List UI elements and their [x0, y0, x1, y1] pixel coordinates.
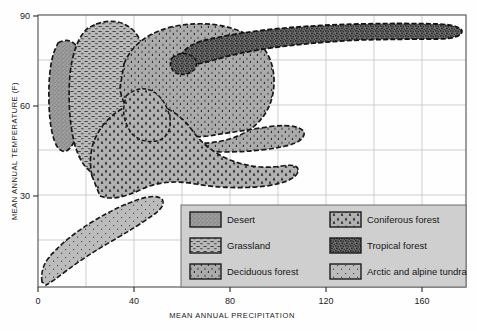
legend-item-tropical-forest[interactable]: Tropical forest	[330, 238, 427, 253]
legend: Desert Grassland Deciduous forest Conife…	[181, 205, 468, 287]
y-axis-ticks	[33, 16, 38, 196]
x-tick-label-120: 120	[318, 296, 333, 306]
legend-swatch-fine-stipple	[190, 212, 221, 227]
biome-chart-svg: Desert Grassland Deciduous forest Conife…	[0, 0, 477, 331]
chart-container: Desert Grassland Deciduous forest Conife…	[0, 0, 477, 331]
legend-label-grassland: Grassland	[227, 240, 270, 251]
legend-label-desert: Desert	[227, 214, 255, 225]
x-tick-label-80: 80	[225, 296, 235, 306]
y-axis-title: MEAN ANNUAL TEMPERATURE (F)	[10, 82, 19, 220]
biome-tropical-forest-nub	[170, 53, 196, 74]
legend-swatch-conifers	[330, 212, 361, 227]
y-tick-label-90: 90	[20, 11, 30, 21]
legend-label-arctic-and-alpine-tundra: Arctic and alpine tundra	[367, 266, 468, 277]
x-tick-label-0: 0	[35, 296, 40, 306]
legend-swatch-horizontal-dashes	[190, 238, 221, 253]
x-tick-label-40: 40	[129, 296, 139, 306]
x-axis-title: MEAN ANNUAL PRECIPITATION	[169, 311, 295, 320]
x-tick-label-160: 160	[414, 296, 429, 306]
legend-label-coniferous-forest: Coniferous forest	[367, 214, 440, 225]
legend-item-deciduous-forest[interactable]: Deciduous forest	[190, 264, 299, 279]
legend-swatch-dense-speckle	[330, 238, 361, 253]
legend-item-arctic-and-alpine-tundra[interactable]: Arctic and alpine tundra	[330, 264, 468, 279]
legend-swatch-sparse-dots	[330, 264, 361, 279]
legend-swatch-teardrops	[190, 264, 221, 279]
y-tick-label-60: 60	[20, 101, 30, 111]
legend-item-grassland[interactable]: Grassland	[190, 238, 270, 253]
legend-label-deciduous-forest: Deciduous forest	[227, 266, 299, 277]
legend-item-coniferous-forest[interactable]: Coniferous forest	[330, 212, 440, 227]
legend-label-tropical-forest: Tropical forest	[367, 240, 427, 251]
y-tick-label-30: 30	[20, 191, 30, 201]
x-axis-ticks	[38, 287, 422, 292]
